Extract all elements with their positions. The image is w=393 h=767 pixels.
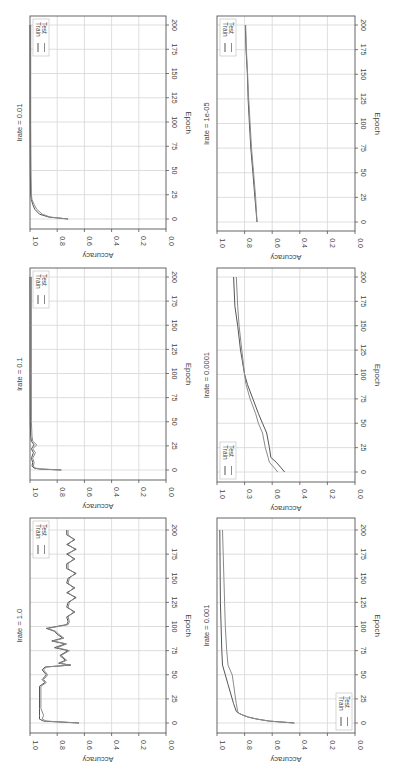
subplot-title: lrate = 0.001 bbox=[202, 605, 211, 647]
accuracy-axis-label: Accuracy bbox=[82, 755, 113, 764]
accuracy-axis-label: Accuracy bbox=[270, 755, 301, 764]
legend-label-test: Test bbox=[41, 274, 48, 286]
accuracy-tick-label: 0.8 bbox=[246, 238, 253, 248]
accuracy-tick-label: 0.0 bbox=[168, 487, 175, 497]
epoch-axis-label: Epoch bbox=[184, 614, 193, 637]
epoch-tick-label: 100 bbox=[171, 116, 178, 128]
subplot-title: lrate = 0.0001 bbox=[202, 352, 211, 398]
epoch-tick-label: 175 bbox=[171, 43, 178, 55]
epoch-tick-label: 125 bbox=[171, 92, 178, 104]
plot-frame bbox=[30, 268, 166, 480]
subplot-lrate0.01: 0255075100125150175200Epoch0.00.20.40.60… bbox=[15, 16, 193, 260]
legend-label-train: Train bbox=[222, 22, 229, 37]
accuracy-tick-label: 1.0 bbox=[219, 740, 226, 750]
accuracy-tick-label: 0.0 bbox=[357, 238, 364, 248]
legend-label-train: Train bbox=[35, 274, 42, 289]
accuracy-tick-label: 1.0 bbox=[32, 236, 39, 246]
epoch-tick-label: 0 bbox=[360, 470, 367, 474]
legend: TrainTest bbox=[220, 19, 236, 56]
epoch-tick-label: 50 bbox=[360, 671, 367, 679]
subplot-title: lrate = 0.1 bbox=[15, 357, 24, 391]
plot-frame bbox=[217, 518, 355, 733]
epoch-tick-label: 150 bbox=[171, 319, 178, 331]
legend-label-test: Test bbox=[41, 22, 48, 34]
legend-label-test: Test bbox=[228, 22, 235, 34]
epoch-tick-label: 25 bbox=[360, 695, 367, 703]
epoch-axis-label: Epoch bbox=[373, 112, 382, 135]
subplot-lrate0.1: 0255075100125150175200Epoch0.00.20.40.60… bbox=[15, 268, 193, 511]
epoch-tick-label: 200 bbox=[171, 524, 178, 536]
legend-label-train: Train bbox=[35, 22, 42, 37]
epoch-axis-label: Epoch bbox=[184, 111, 193, 134]
subplot-lrate0.001: 0255075100125150175200Epoch0.00.20.40.60… bbox=[202, 518, 382, 764]
accuracy-tick-label: 0.4 bbox=[113, 487, 120, 497]
epoch-tick-label: 100 bbox=[171, 621, 178, 633]
accuracy-tick-label: 0.8 bbox=[59, 740, 66, 750]
accuracy-tick-label: 0.0 bbox=[168, 740, 175, 750]
epoch-tick-label: 0 bbox=[360, 220, 367, 224]
accuracy-tick-label: 0.6 bbox=[274, 740, 281, 750]
epoch-tick-label: 150 bbox=[360, 320, 367, 332]
accuracy-tick-label: 0.6 bbox=[274, 238, 281, 248]
epoch-tick-label: 175 bbox=[360, 296, 367, 308]
epoch-tick-label: 75 bbox=[360, 647, 367, 655]
epoch-tick-label: 175 bbox=[360, 44, 367, 56]
legend-label-test: Test bbox=[41, 524, 48, 536]
epoch-tick-label: 25 bbox=[171, 695, 178, 703]
epoch-tick-label: 125 bbox=[360, 344, 367, 356]
epoch-tick-label: 50 bbox=[171, 418, 178, 426]
subplot-title: lrate = 1e-05 bbox=[202, 102, 211, 144]
accuracy-tick-label: 0.3 bbox=[246, 489, 253, 499]
accuracy-tick-label: 0.4 bbox=[113, 236, 120, 246]
epoch-tick-label: 50 bbox=[360, 169, 367, 177]
epoch-tick-label: 150 bbox=[360, 68, 367, 80]
accuracy-tick-label: 1.0 bbox=[32, 487, 39, 497]
epoch-tick-label: 100 bbox=[360, 369, 367, 381]
legend: TrainTest bbox=[336, 693, 352, 730]
epoch-tick-label: 75 bbox=[171, 142, 178, 150]
epoch-tick-label: 175 bbox=[360, 548, 367, 560]
epoch-tick-label: 150 bbox=[171, 572, 178, 584]
accuracy-tick-label: 0.4 bbox=[301, 238, 308, 248]
epoch-tick-label: 100 bbox=[360, 621, 367, 633]
plot-frame bbox=[30, 16, 166, 229]
accuracy-tick-label: 0.2 bbox=[329, 740, 336, 750]
subplot-lrate1.0: 0255075100125150175200Epoch0.00.20.40.60… bbox=[15, 518, 193, 764]
epoch-tick-label: 0 bbox=[171, 217, 178, 221]
accuracy-tick-label: 0.2 bbox=[140, 236, 147, 246]
legend: TrainTest bbox=[33, 271, 49, 308]
accuracy-tick-label: 0.6 bbox=[274, 489, 281, 499]
legend: TrainTest bbox=[33, 521, 49, 558]
epoch-tick-label: 200 bbox=[171, 271, 178, 283]
legend-label-train: Train bbox=[222, 445, 229, 460]
accuracy-tick-label: 1.0 bbox=[219, 489, 226, 499]
epoch-tick-label: 25 bbox=[360, 193, 367, 201]
epoch-tick-label: 100 bbox=[171, 368, 178, 380]
accuracy-tick-label: 0.4 bbox=[301, 489, 308, 499]
epoch-tick-label: 200 bbox=[360, 19, 367, 31]
epoch-tick-label: 125 bbox=[360, 93, 367, 105]
accuracy-tick-label: 0.6 bbox=[86, 487, 93, 497]
legend: TrainTest bbox=[33, 19, 49, 56]
legend-label-train: Train bbox=[35, 524, 42, 539]
epoch-tick-label: 0 bbox=[171, 468, 178, 472]
accuracy-tick-label: 0.6 bbox=[86, 236, 93, 246]
legend-label-test: Test bbox=[228, 445, 235, 457]
accuracy-tick-label: 1.0 bbox=[219, 238, 226, 248]
accuracy-axis-label: Accuracy bbox=[270, 504, 301, 513]
accuracy-tick-label: 0.2 bbox=[329, 238, 336, 248]
subplot-title: lrate = 0.01 bbox=[15, 104, 24, 142]
plot-frame bbox=[30, 518, 166, 733]
epoch-tick-label: 75 bbox=[360, 395, 367, 403]
epoch-tick-label: 125 bbox=[171, 597, 178, 609]
epoch-tick-label: 150 bbox=[360, 572, 367, 584]
subplot-lrate1e-05: 0255075100125150175200Epoch0.00.20.40.60… bbox=[202, 16, 382, 262]
epoch-tick-label: 25 bbox=[171, 442, 178, 450]
accuracy-axis-label: Accuracy bbox=[270, 253, 301, 262]
epoch-tick-label: 75 bbox=[171, 394, 178, 402]
epoch-tick-label: 125 bbox=[171, 344, 178, 356]
epoch-tick-label: 50 bbox=[171, 167, 178, 175]
epoch-tick-label: 50 bbox=[171, 671, 178, 679]
epoch-axis-label: Epoch bbox=[373, 364, 382, 387]
accuracy-tick-label: 0.2 bbox=[140, 487, 147, 497]
